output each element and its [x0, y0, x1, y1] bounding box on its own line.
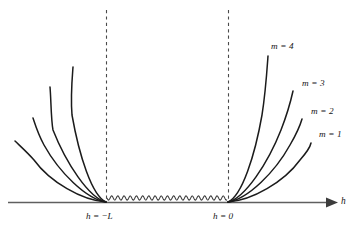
curve-m-4-left: [71, 67, 106, 202]
x-axis-label: h: [341, 197, 346, 206]
x-axis-arrowhead: [326, 198, 338, 208]
tick-label-h-equals-zero: h = 0: [213, 212, 233, 221]
figure-canvas: [0, 0, 355, 232]
curve-label-m-4: m = 4: [271, 42, 294, 51]
wavy-connector-line: [107, 196, 227, 200]
tick-label-h-equals-minus-L: h = −L: [86, 212, 113, 221]
curve-m-3-right: [228, 91, 293, 202]
curve-label-m-1: m = 1: [319, 130, 342, 139]
curve-label-m-2: m = 2: [311, 107, 334, 116]
curve-m-1-right: [228, 143, 311, 202]
figure-container: h = −L h = 0 h m = 4 m = 3 m = 2 m = 1: [0, 0, 355, 232]
curve-label-m-3: m = 3: [302, 79, 325, 88]
curve-m-4-right: [228, 56, 268, 202]
